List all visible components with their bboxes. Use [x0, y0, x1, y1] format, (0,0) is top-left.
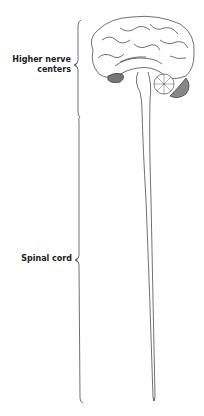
cerebellum: [154, 74, 174, 94]
brain: [91, 16, 194, 97]
nervous-system-illustration: [0, 0, 204, 416]
spinal-cord: [136, 72, 155, 401]
brace-spinal-cord: [76, 117, 83, 403]
brace-higher-nerve-centers: [75, 20, 81, 117]
